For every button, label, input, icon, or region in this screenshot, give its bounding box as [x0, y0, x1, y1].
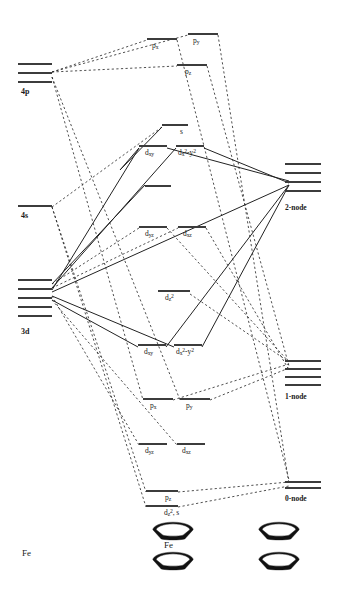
- correlation-line-dashed: [52, 77, 180, 400]
- ligand-group-2-node-line: [285, 163, 321, 165]
- mo-level-line-mo-dxy-antibonding: [139, 145, 167, 147]
- ligand-group-1-node-line: [285, 368, 321, 370]
- ligand-group-2-node-line: [285, 181, 321, 183]
- atomic-level-4p-line: [18, 72, 52, 74]
- correlation-line-solid: [204, 148, 289, 183]
- correlation-line-dashed: [52, 127, 162, 207]
- mo-level-line-mo-py-bonding: [180, 398, 210, 400]
- free-cp-ring-bottom: [258, 551, 300, 571]
- atomic-level-3d-line: [18, 315, 52, 317]
- atomic-level-4p-line: [18, 63, 52, 65]
- mo-level-label-mo-dxy-antibonding: dxy: [145, 149, 154, 158]
- correlation-line-solid: [52, 185, 289, 292]
- mo-level-line-mo-dz2-s-bonding: [146, 505, 178, 507]
- ligand-group-1-node-line: [285, 376, 321, 378]
- correlation-line-dashed: [177, 40, 289, 480]
- correlation-line-solid: [166, 185, 289, 347]
- mo-level-line-mo-dyz-bonding: [139, 443, 167, 445]
- correlation-line-dashed: [206, 228, 289, 370]
- mo-level-label-mo-dyz-nonbonding: dyz: [145, 230, 154, 239]
- mo-level-line-mo-dxy-bonding: [138, 344, 166, 346]
- mo-level-line-mo-nonbonding-mid: [145, 185, 171, 187]
- atomic-level-4p-line: [18, 81, 52, 83]
- atomic-level-label-4s: 4s: [21, 212, 28, 220]
- mo-level-label-mo-pz-antibonding: pz: [185, 68, 191, 77]
- mo-level-label-mo-py-antibonding: py: [193, 37, 199, 46]
- correlation-line-dashed: [178, 486, 289, 507]
- ligand-group-1-node-line: [285, 384, 321, 386]
- correlation-line-solid: [52, 300, 138, 347]
- mo-level-label-mo-py-bonding: py: [186, 402, 192, 411]
- mo-level-label-mo-px-bonding: px: [150, 402, 156, 411]
- ligand-group-0-node-label: 0-node: [285, 494, 307, 503]
- correlation-line-dashed: [52, 296, 139, 445]
- mo-level-line-mo-dyz-nonbonding: [139, 226, 167, 228]
- atomic-level-4s-line: [18, 205, 52, 207]
- correlation-line-dashed: [167, 228, 289, 362]
- free-cp-ring-top: [258, 521, 300, 541]
- correlation-line-dashed: [190, 294, 289, 362]
- ferrocene-metal-label: Fe: [164, 540, 173, 550]
- mo-level-line-mo-py-antibonding: [188, 33, 218, 35]
- correlation-line-dashed: [173, 364, 289, 400]
- correlation-line-solid: [52, 148, 139, 290]
- mo-level-label-mo-dxz-nonbonding: dxz: [183, 230, 192, 239]
- mo-level-line-mo-dxz-nonbonding: [178, 226, 206, 228]
- fe-caption-label: Fe: [22, 548, 31, 558]
- correlation-line-solid: [120, 127, 162, 170]
- ferrocene-bottom-cp-ring: [152, 551, 194, 571]
- atomic-level-3d-line: [18, 306, 52, 308]
- atomic-level-3d-line: [18, 297, 52, 299]
- correlation-line-solid: [52, 148, 176, 288]
- correlation-line-dashed: [210, 368, 289, 400]
- ligand-group-2-node-label: 2-node: [285, 203, 307, 212]
- mo-level-label-mo-s-antibonding: s: [180, 128, 183, 136]
- mo-level-label-mo-dz2-nonbonding: dz2: [165, 294, 174, 303]
- correlation-line-solid: [52, 185, 145, 284]
- mo-level-line-mo-dx2y2-bonding: [174, 344, 202, 346]
- mo-level-label-mo-dxy-bonding: dxy: [144, 348, 153, 357]
- mo-level-label-mo-px-antibonding: px: [152, 42, 158, 51]
- correlation-line-dashed: [178, 482, 289, 492]
- mo-level-line-mo-pz-antibonding: [177, 64, 207, 66]
- atomic-level-3d-line: [18, 279, 52, 281]
- mo-level-line-mo-s-antibonding: [162, 124, 188, 126]
- atomic-level-label-4p: 4p: [21, 88, 29, 96]
- ligand-group-0-node-line: [285, 487, 321, 489]
- mo-level-line-mo-dz2-nonbonding: [158, 290, 190, 292]
- mo-level-label-mo-dyz-bonding: dyz: [145, 447, 154, 456]
- ferrocene-top-cp-ring: [152, 521, 194, 541]
- ligand-group-2-node-line: [285, 190, 321, 192]
- ligand-group-0-node-line: [285, 481, 321, 483]
- mo-level-label-mo-dx2y2-bonding: dx2-y2: [176, 348, 194, 357]
- mo-level-line-mo-dxz-bonding: [177, 443, 205, 445]
- correlation-line-dashed: [218, 35, 289, 484]
- ligand-group-2-node-line: [285, 172, 321, 174]
- mo-level-label-mo-dxz-bonding: dxz: [182, 447, 191, 456]
- mo-level-line-mo-pz-bonding: [146, 490, 178, 492]
- mo-level-label-mo-pz-bonding: pz: [165, 494, 171, 503]
- correlation-line-dashed: [52, 207, 146, 507]
- mo-level-line-mo-dx2y2-antibonding: [176, 145, 204, 147]
- ligand-group-1-node-label: 1-node: [285, 392, 307, 401]
- mo-level-label-mo-dz2-s-bonding: dz2, s: [164, 509, 179, 518]
- correlation-line-dashed: [52, 77, 143, 400]
- mo-level-line-mo-px-bonding: [143, 398, 173, 400]
- correlation-line-dashed: [52, 40, 147, 72]
- atomic-level-3d-line: [18, 288, 52, 290]
- mo-level-label-mo-dx2y2-antibonding: dx2-y2: [178, 149, 196, 158]
- mo-diagram-canvas: 4p4s3d pxpypzsdxydx2-y2dyzdxzdz2dxydx2-y…: [0, 0, 339, 593]
- atomic-level-label-3d: 3d: [21, 328, 29, 336]
- mo-level-line-mo-px-antibonding: [147, 38, 177, 40]
- correlation-line-dashed: [52, 228, 139, 284]
- ligand-group-1-node-line: [285, 360, 321, 362]
